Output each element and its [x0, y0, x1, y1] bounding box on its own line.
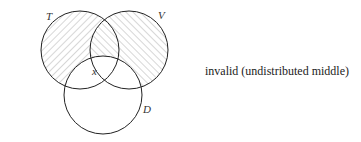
label-t: T: [46, 10, 53, 22]
marker-x: x: [91, 65, 97, 77]
label-v: V: [158, 9, 166, 21]
label-d: D: [142, 103, 151, 115]
venn-diagram: T V D x: [0, 0, 200, 142]
verdict-text: invalid (undistributed middle): [205, 64, 349, 79]
